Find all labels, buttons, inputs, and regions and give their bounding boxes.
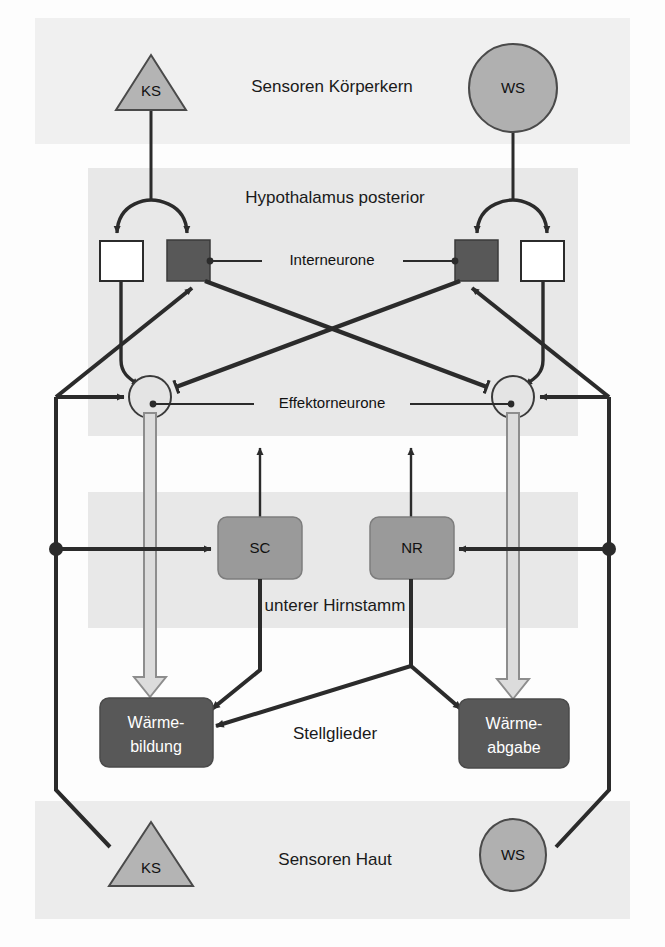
effector-waermebildung-box[interactable]: [100, 698, 213, 767]
band-label-stellglieder: Stellglieder: [293, 724, 377, 743]
effector-neuron-right[interactable]: [492, 376, 534, 418]
efferent-nr-branch-right: [411, 666, 461, 709]
effector-waermeabgabe-label-line1: Wärme-: [486, 715, 543, 732]
callout-label-effektorneurone: Effektorneurone: [279, 394, 385, 411]
interneuron-left-dark-box[interactable]: [167, 240, 210, 281]
effector-waermebildung-label-line2: bildung: [130, 738, 182, 755]
effector-waermebildung-label-line1: Wärme-: [128, 714, 185, 731]
band-label-koerperkern: Sensoren Körperkern: [251, 77, 413, 96]
effector-waermeabgabe-box[interactable]: [459, 699, 569, 768]
nucleus-nr-label: NR: [401, 539, 423, 556]
effector-waermeabgabe-label-line2: abgabe: [487, 739, 540, 756]
interneuron-right-dark-box[interactable]: [455, 240, 498, 281]
sensor-skin-ks-label: KS: [141, 859, 161, 876]
diagram-canvas: Sensoren Körperkern Hypothalamus posteri…: [0, 0, 665, 947]
sensor-skin-ws-label: WS: [501, 846, 525, 863]
band-label-haut: Sensoren Haut: [278, 850, 392, 869]
leader-dot-interneurone-right: [452, 258, 459, 265]
band-label-hypothalamus: Hypothalamus posterior: [245, 188, 425, 207]
leader-dot-effektorneurone-right: [508, 401, 515, 408]
leader-dot-effektorneurone-left: [150, 401, 157, 408]
interneuron-left-white-box[interactable]: [100, 241, 143, 281]
band-label-hirnstamm: unterer Hirnstamm: [265, 596, 406, 615]
junction-dot-right: [602, 542, 616, 556]
effector-neuron-left[interactable]: [129, 376, 171, 418]
interneuron-right-white-box[interactable]: [521, 241, 564, 281]
leader-dot-interneurone-left: [207, 258, 214, 265]
sensor-core-ws-label: WS: [501, 79, 525, 96]
callout-label-interneurone: Interneurone: [289, 251, 374, 268]
junction-dot-left: [49, 542, 63, 556]
band-backgrounds: [35, 18, 630, 919]
sensor-core-ks-label: KS: [141, 82, 161, 99]
nucleus-sc-label: SC: [250, 539, 271, 556]
